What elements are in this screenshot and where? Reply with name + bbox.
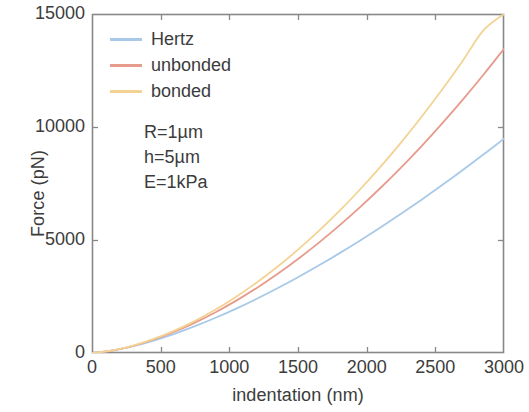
chart-figure: Force (pN) indentation (nm) 050001000015… bbox=[0, 0, 529, 412]
annotation-line: R=1µm bbox=[144, 120, 208, 145]
legend-color-swatch bbox=[110, 38, 142, 41]
chart-legend: Hertzunbondedbonded bbox=[110, 26, 290, 104]
legend-label: bonded bbox=[151, 82, 211, 100]
legend-label: Hertz bbox=[151, 30, 194, 48]
legend-item-unbonded[interactable]: unbonded bbox=[110, 52, 290, 78]
legend-item-bonded[interactable]: bonded bbox=[110, 78, 290, 104]
annotation-line: h=5µm bbox=[144, 145, 208, 170]
legend-color-swatch bbox=[110, 64, 142, 67]
parameter-annotation: R=1µmh=5µmE=1kPa bbox=[144, 120, 208, 195]
legend-color-swatch bbox=[110, 90, 142, 93]
legend-item-hertz[interactable]: Hertz bbox=[110, 26, 290, 52]
legend-label: unbonded bbox=[151, 56, 231, 74]
annotation-line: E=1kPa bbox=[144, 170, 208, 195]
